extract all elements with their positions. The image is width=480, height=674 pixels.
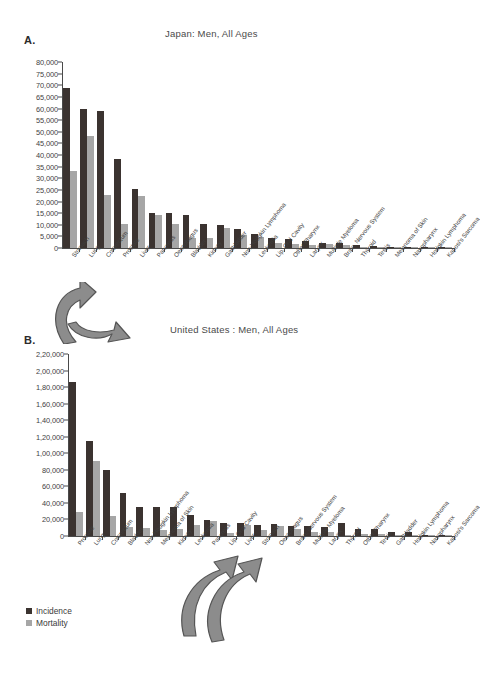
y-tick-mark (64, 387, 68, 388)
y-tick-mark (64, 370, 68, 371)
x-tick-mark (318, 248, 319, 252)
x-tick-mark (185, 536, 186, 540)
panel-japan: A. Japan: Men, All Ages 80,00075,00070,0… (0, 0, 466, 330)
y-tick-mark (58, 166, 62, 167)
x-tick-mark (320, 536, 321, 540)
y-tick-mark (58, 96, 62, 97)
x-tick-mark (369, 248, 370, 252)
x-tick-mark (164, 248, 165, 252)
x-tick-mark (85, 536, 86, 540)
x-tick-mark (102, 536, 103, 540)
legend-label-incidence: Incidence (36, 606, 72, 616)
x-tick-mark (403, 248, 404, 252)
y-tick-mark (64, 403, 68, 404)
y-tick-mark (58, 131, 62, 132)
y-tick-mark (58, 108, 62, 109)
y-tick-mark (58, 201, 62, 202)
bar-incidence (86, 441, 93, 536)
panel-a-letter: A. (24, 34, 35, 46)
y-tick-mark (58, 143, 62, 144)
legend-swatch-mortality (26, 620, 32, 626)
x-tick-mark (147, 248, 148, 252)
y-tick-mark (64, 536, 68, 537)
x-tick-mark (202, 536, 203, 540)
x-tick-mark (135, 536, 136, 540)
x-tick-mark (420, 536, 421, 540)
x-tick-mark (335, 248, 336, 252)
x-tick-mark (169, 536, 170, 540)
bar-group-us (68, 354, 454, 536)
y-tick-mark (58, 62, 62, 63)
x-tick-mark (215, 248, 216, 252)
y-tick-mark (64, 502, 68, 503)
y-tick-mark (58, 189, 62, 190)
x-tick-mark (198, 248, 199, 252)
y-tick-mark (58, 178, 62, 179)
x-tick-mark (249, 248, 250, 252)
x-tick-mark (267, 248, 268, 252)
chart-plot-japan: 80,00075,00070,00065,00060,00055,00050,0… (62, 62, 454, 248)
y-tick-mark (58, 236, 62, 237)
x-tick-mark (454, 536, 455, 540)
y-tick-mark (58, 120, 62, 121)
x-tick-mark (303, 536, 304, 540)
bar-incidence (63, 88, 70, 248)
x-tick-mark (113, 248, 114, 252)
x-tick-mark (284, 248, 285, 252)
legend-label-mortality: Mortality (36, 618, 68, 628)
y-tick-mark (58, 248, 62, 249)
x-tick-mark (253, 536, 254, 540)
x-tick-mark (454, 248, 455, 252)
x-tick-mark (337, 536, 338, 540)
bar-incidence (103, 470, 110, 536)
x-tick-mark (269, 536, 270, 540)
x-tick-mark (118, 536, 119, 540)
x-tick-mark (236, 536, 237, 540)
bar-incidence (80, 109, 87, 249)
x-tick-mark (370, 536, 371, 540)
y-tick-mark (64, 469, 68, 470)
bar-incidence (149, 213, 156, 248)
panel-b-letter: B. (24, 334, 35, 346)
curved-arrow-icon-b (176, 552, 282, 648)
x-tick-mark (96, 248, 97, 252)
x-tick-mark (353, 536, 354, 540)
legend: Incidence Mortality (26, 606, 72, 630)
bar-mortality (93, 461, 100, 536)
x-tick-mark (386, 248, 387, 252)
y-tick-mark (64, 486, 68, 487)
panel-a-title: Japan: Men, All Ages (165, 28, 258, 39)
x-tick-mark (219, 536, 220, 540)
x-tick-mark (387, 536, 388, 540)
x-axis-us (68, 536, 454, 537)
x-tick-mark (286, 536, 287, 540)
x-tick-mark (152, 536, 153, 540)
bar-mortality (155, 215, 162, 248)
x-tick-mark (181, 248, 182, 252)
y-tick-mark (58, 224, 62, 225)
x-tick-mark (352, 248, 353, 252)
bar-incidence (69, 382, 76, 536)
chart-plot-united-states: 2,20,0002,00,0001,80,0001,60,0001,40,000… (68, 354, 454, 536)
x-tick-mark (437, 536, 438, 540)
bar-mortality (104, 195, 111, 248)
x-tick-mark (232, 248, 233, 252)
x-tick-mark (437, 248, 438, 252)
bar-incidence (97, 111, 104, 248)
x-tick-mark (301, 248, 302, 252)
legend-swatch-incidence (26, 608, 32, 614)
y-tick-mark (58, 155, 62, 156)
x-tick-mark (130, 248, 131, 252)
y-tick-mark (64, 420, 68, 421)
bar-group-japan (62, 62, 454, 248)
x-axis-japan (62, 248, 454, 249)
x-tick-mark (404, 536, 405, 540)
y-tick-mark (64, 354, 68, 355)
legend-item-incidence: Incidence (26, 606, 72, 616)
y-tick-mark (64, 519, 68, 520)
panel-united-states: B. United States : Men, All Ages 2,20,00… (0, 320, 466, 674)
bar-mortality (87, 136, 94, 248)
y-tick-mark (58, 73, 62, 74)
y-tick-mark (58, 213, 62, 214)
legend-item-mortality: Mortality (26, 618, 72, 628)
